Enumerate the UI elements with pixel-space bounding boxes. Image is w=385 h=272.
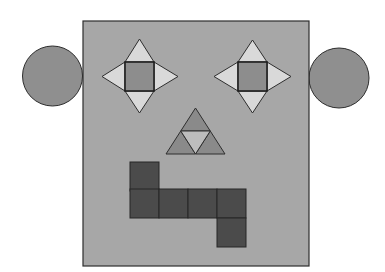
mouth-block-2 [130, 189, 159, 218]
mouth-block-6 [217, 218, 246, 247]
left-ear-circle [23, 46, 83, 106]
eye-square [238, 62, 267, 91]
mouth-block-1 [130, 162, 159, 191]
mouth-block-3 [159, 189, 188, 218]
robot-face-diagram [0, 0, 385, 272]
mouth-block-5 [217, 189, 246, 218]
eye-square [125, 62, 154, 91]
right-ear-circle [309, 48, 369, 108]
mouth-block-4 [188, 189, 217, 218]
